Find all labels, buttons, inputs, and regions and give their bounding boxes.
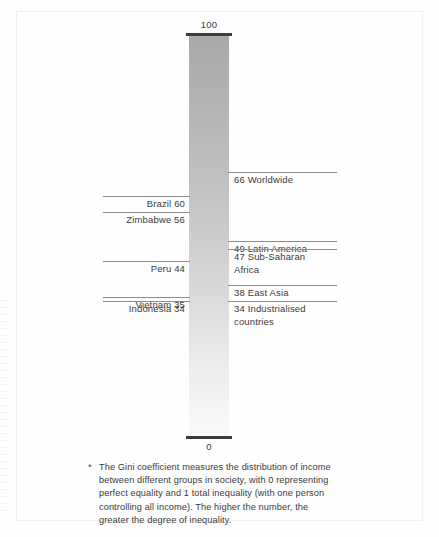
gini-scale-chart: 100 0 66 WorldwideBrazil 60Zimbabwe 5649… — [0, 0, 439, 537]
footnote-text: The Gini coefficient measures the distri… — [88, 461, 340, 527]
page: 100 0 66 WorldwideBrazil 60Zimbabwe 5649… — [0, 0, 439, 537]
marker-label-indonesia: Indonesia 34 — [55, 303, 185, 316]
leader-line-industrialised-countries — [228, 301, 337, 302]
marker-label-brazil: Brazil 60 — [55, 198, 185, 211]
scale-bar — [189, 36, 229, 437]
leader-line-sub-saharan-africa — [228, 249, 337, 250]
footnote-marker: * — [88, 461, 92, 474]
marker-label-sub-saharan-africa: 47 Sub-Saharan Africa — [234, 251, 349, 276]
marker-label-east-asia: 38 East Asia — [234, 287, 349, 300]
leader-line-brazil — [103, 196, 190, 197]
axis-label-min: 0 — [186, 441, 232, 452]
scale-cap-bottom — [186, 436, 232, 439]
leader-line-latin-america — [228, 241, 337, 242]
footnote: * The Gini coefficient measures the dist… — [88, 461, 340, 527]
marker-label-industrialised-countries: 34 Industrialised countries — [234, 303, 349, 328]
leader-line-worldwide — [228, 172, 337, 173]
leader-line-vietnam — [103, 297, 190, 298]
scale-cap-top — [186, 33, 232, 36]
axis-label-max: 100 — [186, 19, 232, 30]
leader-line-peru — [103, 261, 190, 262]
marker-label-peru: Peru 44 — [55, 263, 185, 276]
leader-line-zimbabwe — [103, 212, 190, 213]
marker-label-zimbabwe: Zimbabwe 56 — [55, 214, 185, 227]
leader-line-east-asia — [228, 285, 337, 286]
marker-label-worldwide: 66 Worldwide — [234, 174, 349, 187]
leader-line-indonesia — [103, 301, 190, 302]
